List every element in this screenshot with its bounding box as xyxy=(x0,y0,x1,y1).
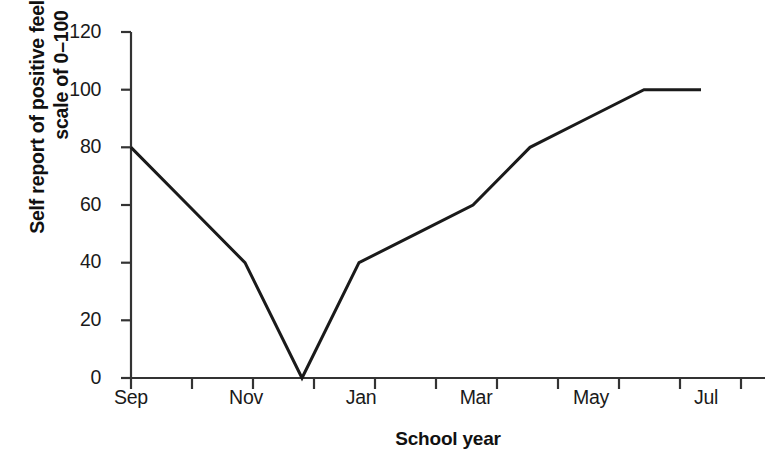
plot-area xyxy=(0,0,781,470)
chart-figure: Self report of positive feelings on a sc… xyxy=(0,0,781,470)
x-axis xyxy=(131,378,765,389)
data-series-line xyxy=(131,90,701,378)
y-axis xyxy=(121,32,131,378)
